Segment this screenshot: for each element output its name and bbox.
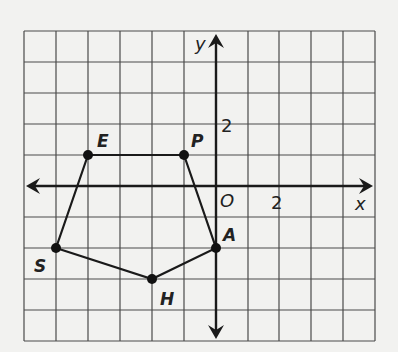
labels: y x 2 2 O E P A S H <box>34 33 366 309</box>
x-tick-label: 2 <box>271 192 282 213</box>
vertex-label-s: S <box>34 256 46 276</box>
coordinate-plane: y x 2 2 O E P A S H <box>0 0 398 352</box>
vertex-e <box>83 150 93 160</box>
vertex-label-a: A <box>221 225 236 245</box>
vertex-label-e: E <box>97 131 109 151</box>
vertex-a <box>211 243 221 253</box>
vertex-h <box>147 274 157 284</box>
vertex-s <box>51 243 61 253</box>
vertex-p <box>179 150 189 160</box>
y-tick-label: 2 <box>221 115 232 136</box>
x-axis-label: x <box>354 193 366 214</box>
origin-label: O <box>220 190 234 211</box>
vertex-label-p: P <box>191 131 204 151</box>
y-axis-label: y <box>194 33 206 54</box>
vertex-label-h: H <box>160 289 174 309</box>
